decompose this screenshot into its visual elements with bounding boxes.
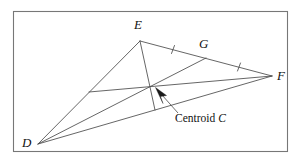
centroid-annotation-prefix: Centroid — [175, 112, 218, 124]
figure-canvas — [0, 0, 301, 162]
centroid-annotation: Centroid C — [175, 113, 226, 125]
figure-border — [14, 12, 288, 152]
centroid-annotation-variable: C — [218, 112, 226, 124]
point-label-G: G — [199, 37, 208, 50]
geometry-figure: D E F G Centroid C — [0, 0, 301, 162]
vertex-label-E: E — [134, 18, 142, 31]
vertex-label-D: D — [22, 136, 31, 149]
vertex-label-F: F — [277, 69, 285, 82]
